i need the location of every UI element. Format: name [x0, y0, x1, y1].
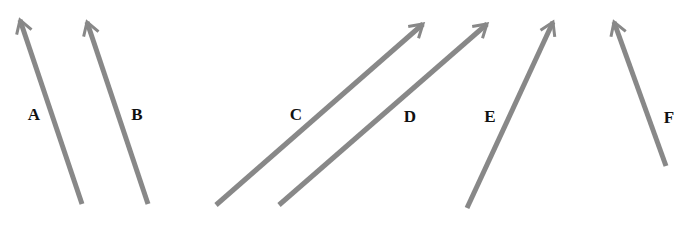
arrow-b: B	[84, 22, 148, 204]
arrow-c-shaft	[216, 24, 423, 205]
arrow-d-label: D	[404, 107, 416, 126]
arrow-e-shaft	[467, 22, 553, 208]
arrow-a-label: A	[28, 105, 41, 124]
diagram-canvas: A B C D E F	[0, 0, 698, 228]
arrow-c: C	[216, 24, 423, 205]
arrow-d: D	[279, 24, 487, 205]
arrow-a: A	[17, 20, 82, 204]
arrow-f-shaft	[614, 22, 666, 166]
arrow-b-label: B	[131, 105, 142, 124]
arrow-d-shaft	[279, 24, 487, 205]
arrow-f-label: F	[664, 108, 674, 127]
vector-arrows-diagram: A B C D E F	[0, 0, 698, 228]
arrow-e: E	[467, 22, 555, 208]
arrow-f: F	[611, 22, 674, 166]
arrow-e-label: E	[484, 107, 495, 126]
arrow-c-label: C	[290, 105, 302, 124]
